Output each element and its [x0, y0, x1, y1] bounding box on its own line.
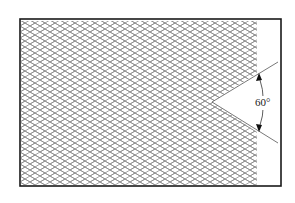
arrowhead-upper-icon [256, 73, 262, 81]
angle-label: 60° [255, 96, 270, 108]
arrowhead-lower-icon [256, 124, 262, 132]
hatched-region [21, 21, 257, 185]
diagram-canvas [0, 0, 295, 203]
